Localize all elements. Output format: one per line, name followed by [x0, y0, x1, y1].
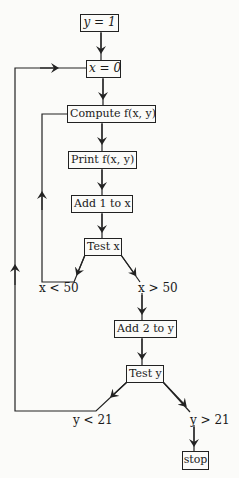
- node-label: Print f(x, y): [71, 153, 134, 166]
- label-y-gt-21: y > 21: [190, 413, 230, 427]
- node-stop: stop: [182, 451, 209, 470]
- node-label: Add 1 to x: [74, 197, 131, 210]
- node-label: Add 2 to y: [117, 322, 174, 335]
- node-init-y: y = 1: [80, 14, 119, 32]
- node-label: Test x: [87, 240, 120, 253]
- label-x-lt-50: x < 50: [39, 281, 79, 295]
- node-label: Compute f(x, y): [70, 107, 156, 120]
- node-label: Test y: [129, 367, 162, 380]
- label-x-gt-50: x > 50: [138, 281, 178, 295]
- node-test-y: Test y: [126, 365, 164, 383]
- node-print: Print f(x, y): [68, 151, 137, 169]
- node-compute: Compute f(x, y): [67, 105, 156, 123]
- node-init-x: x = 0: [86, 60, 121, 78]
- label-y-lt-21: y < 21: [73, 413, 113, 427]
- node-label: stop: [184, 453, 208, 466]
- node-test-x: Test x: [84, 238, 122, 256]
- node-add-y: Add 2 to y: [114, 320, 177, 338]
- node-label: x = 0: [89, 61, 121, 75]
- node-label: y = 1: [83, 15, 115, 29]
- node-add-x: Add 1 to x: [71, 195, 133, 213]
